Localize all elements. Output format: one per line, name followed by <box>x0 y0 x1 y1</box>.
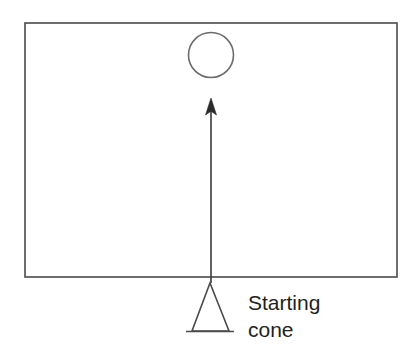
drill-diagram: Starting cone <box>0 0 417 363</box>
starting-cone-label-line1: Starting <box>248 291 320 314</box>
target-circle <box>189 33 234 78</box>
diagram-canvas: Starting cone <box>0 0 417 363</box>
starting-cone-triangle <box>192 283 229 331</box>
starting-cone-label-line2: cone <box>248 318 294 341</box>
